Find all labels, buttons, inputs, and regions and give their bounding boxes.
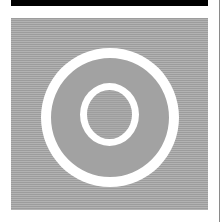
outer-ring-icon [41, 48, 179, 187]
top-bar [11, 0, 208, 6]
vertical-divider [219, 0, 220, 222]
striped-image-panel: Concentric white ring icon on horizontal… [11, 18, 208, 210]
graphic-description: Concentric white ring icon on horizontal… [11, 18, 12, 19]
inner-ring-icon [80, 83, 139, 146]
